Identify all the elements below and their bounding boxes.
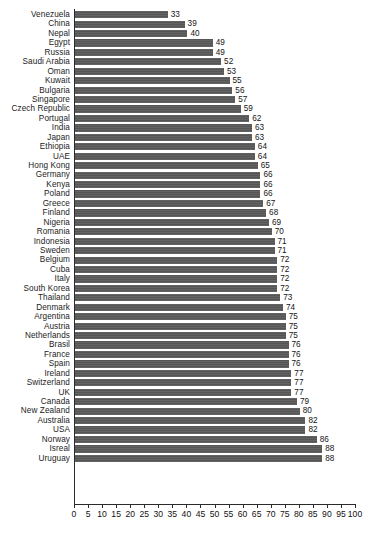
category-label: Poland xyxy=(0,189,70,198)
bar-row: Kuwait55 xyxy=(0,76,374,85)
x-tick-label: 15 xyxy=(111,509,121,520)
x-tick xyxy=(313,505,314,508)
x-tick-label: 35 xyxy=(168,509,178,520)
x-tick xyxy=(257,505,258,508)
bar-row: Nigeria69 xyxy=(0,218,374,227)
category-label: Venezuela xyxy=(0,10,70,19)
category-label: Hong Kong xyxy=(0,161,70,170)
category-label: Thailand xyxy=(0,293,70,302)
bar xyxy=(75,445,322,452)
bar-row: Argentina75 xyxy=(0,312,374,321)
category-label: Uruguay xyxy=(0,454,70,463)
bar-row: Spain76 xyxy=(0,359,374,368)
bar-value-label: 63 xyxy=(255,123,264,132)
bar-value-label: 80 xyxy=(303,406,312,415)
category-label: Romania xyxy=(0,227,70,236)
x-tick-label: 45 xyxy=(196,509,206,520)
bar-row: Nepal40 xyxy=(0,29,374,38)
bar-value-label: 77 xyxy=(294,369,303,378)
category-label: USA xyxy=(0,425,70,434)
bar xyxy=(75,172,260,179)
category-label: Canada xyxy=(0,397,70,406)
category-label: Germany xyxy=(0,170,70,179)
bar-value-label: 66 xyxy=(263,170,272,179)
bar-value-label: 69 xyxy=(272,218,281,227)
bar xyxy=(75,11,168,18)
bar-value-label: 71 xyxy=(278,246,287,255)
bar-row: Romania70 xyxy=(0,227,374,236)
category-label: UAE xyxy=(0,152,70,161)
bar-row: Greece67 xyxy=(0,199,374,208)
bar-row: Denmark74 xyxy=(0,303,374,312)
x-tick xyxy=(102,505,103,508)
bar xyxy=(75,153,255,160)
bar xyxy=(75,58,221,65)
bar xyxy=(75,247,275,254)
bar xyxy=(75,49,213,56)
bar xyxy=(75,323,286,330)
bar-value-label: 49 xyxy=(216,38,225,47)
bar xyxy=(75,257,277,264)
bar-value-label: 72 xyxy=(280,284,289,293)
bar-row: UK77 xyxy=(0,388,374,397)
bar-row: Indonesia71 xyxy=(0,237,374,246)
bar-value-label: 52 xyxy=(224,57,233,66)
x-tick xyxy=(186,505,187,508)
bar-row: Switzerland77 xyxy=(0,378,374,387)
x-tick-label: 50 xyxy=(210,509,220,520)
bar xyxy=(75,313,286,320)
bar-value-label: 74 xyxy=(286,303,295,312)
x-tick xyxy=(215,505,216,508)
x-tick xyxy=(229,505,230,508)
bar xyxy=(75,143,255,150)
category-label: Oman xyxy=(0,67,70,76)
bar-value-label: 71 xyxy=(278,237,287,246)
bar xyxy=(75,332,286,339)
x-tick xyxy=(243,505,244,508)
bar xyxy=(75,96,235,103)
bar-value-label: 67 xyxy=(266,199,275,208)
bar-value-label: 88 xyxy=(325,454,334,463)
bar-value-label: 86 xyxy=(320,435,329,444)
bar-value-label: 75 xyxy=(289,322,298,331)
bar-value-label: 53 xyxy=(227,67,236,76)
bar-value-label: 72 xyxy=(280,265,289,274)
category-label: Bulgaria xyxy=(0,86,70,95)
bar xyxy=(75,190,260,197)
bar-value-label: 72 xyxy=(280,274,289,283)
category-label: France xyxy=(0,350,70,359)
x-tick-label: 75 xyxy=(280,509,290,520)
x-tick-label: 30 xyxy=(154,509,164,520)
category-label: South Korea xyxy=(0,284,70,293)
x-tick xyxy=(116,505,117,508)
bar-row: Norway86 xyxy=(0,435,374,444)
x-tick xyxy=(341,505,342,508)
bar xyxy=(75,455,322,462)
bar-row: Saudi Arabia52 xyxy=(0,57,374,66)
bar-row: France76 xyxy=(0,350,374,359)
bar xyxy=(75,370,291,377)
bar-value-label: 64 xyxy=(258,142,267,151)
bar-value-label: 64 xyxy=(258,152,267,161)
bar-value-label: 68 xyxy=(269,208,278,217)
bar xyxy=(75,219,269,226)
category-label: Australia xyxy=(0,416,70,425)
category-label: UK xyxy=(0,388,70,397)
category-label: Cuba xyxy=(0,265,70,274)
bar-value-label: 75 xyxy=(289,331,298,340)
x-tick-label: 40 xyxy=(182,509,192,520)
bar-value-label: 55 xyxy=(233,76,242,85)
category-label: Russia xyxy=(0,48,70,57)
bar-value-label: 33 xyxy=(171,10,180,19)
bar-value-label: 49 xyxy=(216,48,225,57)
x-tick xyxy=(172,505,173,508)
bar-value-label: 82 xyxy=(308,416,317,425)
bar-value-label: 88 xyxy=(325,444,334,453)
category-label: Japan xyxy=(0,133,70,142)
bar xyxy=(75,398,297,405)
bar xyxy=(75,360,289,367)
bar-row: Finland68 xyxy=(0,208,374,217)
bar-row: Hong Kong65 xyxy=(0,161,374,170)
x-tick xyxy=(299,505,300,508)
category-label: Nigeria xyxy=(0,218,70,227)
